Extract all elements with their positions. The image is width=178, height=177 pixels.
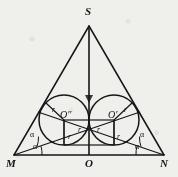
side-MS-line (14, 26, 89, 155)
circle-center-label-right: O′ (108, 110, 117, 120)
vertex-label-O: O (85, 158, 93, 169)
angle-label-M-lower: α (33, 143, 37, 151)
radius-label-2: r (68, 133, 71, 141)
angle-label-N-upper: α (140, 131, 144, 139)
geometry-figure (0, 0, 178, 177)
radius-label-1: r (78, 126, 81, 134)
radius-label-5: r (124, 106, 127, 114)
radius-label-0: r (52, 106, 55, 114)
angle-label-M-upper: α (30, 131, 34, 139)
bisector-from-N-line (38, 112, 164, 155)
tangency-marker (85, 95, 93, 103)
circle-center-label-left: O″ (60, 110, 71, 120)
radius-label-3: r (97, 126, 100, 134)
angle-arc-M-upper (37, 137, 39, 147)
vertex-label-S: S (85, 6, 91, 17)
vertex-label-N: N (160, 158, 168, 169)
side-SN-line (89, 26, 164, 155)
angle-arc-M-lower (41, 146, 42, 155)
radius-label-4: r (117, 133, 120, 141)
angle-label-N-lower: α (135, 143, 139, 151)
vertex-label-M: M (6, 158, 16, 169)
